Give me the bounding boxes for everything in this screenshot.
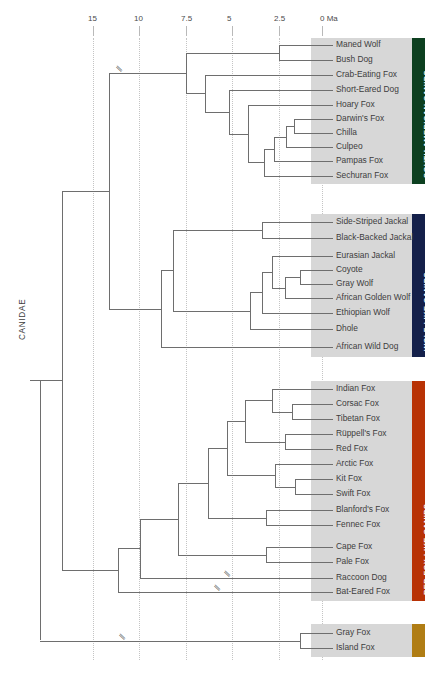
tip-line <box>322 510 333 511</box>
tip-line <box>322 176 333 177</box>
tip-line <box>322 547 333 548</box>
tip-line <box>322 592 333 593</box>
branch-vertical <box>264 149 265 176</box>
branch-horizontal <box>118 548 140 549</box>
tip-line <box>322 298 333 299</box>
branch-horizontal <box>178 483 208 484</box>
tip-line <box>322 133 333 134</box>
branch-horizontal <box>208 518 266 519</box>
branch-horizontal <box>109 73 150 74</box>
branch-horizontal <box>285 449 322 450</box>
branch-horizontal <box>161 347 322 348</box>
branch-horizontal <box>205 112 229 113</box>
tip-line <box>322 329 333 330</box>
phylogeny-figure: 15107.552.50 Ma SOUTH AMERICAN CANIDSWOL… <box>0 0 442 674</box>
branch-horizontal <box>109 309 161 310</box>
taxon-label: Side-Striped Jackal <box>336 217 408 226</box>
branch-horizontal <box>266 525 322 526</box>
branch-horizontal <box>40 380 62 381</box>
tip-line <box>322 464 333 465</box>
branch-horizontal <box>250 329 322 330</box>
branch-vertical <box>266 510 267 525</box>
branch-vertical <box>161 270 162 347</box>
branch-horizontal <box>186 93 205 94</box>
branch-horizontal <box>294 133 322 134</box>
branch-horizontal <box>205 75 322 76</box>
branch-horizontal <box>292 419 322 420</box>
branch-vertical <box>272 256 273 288</box>
axis-tick-label-10: 10 <box>134 14 143 23</box>
tip-line <box>322 479 333 480</box>
tip-line <box>322 45 333 46</box>
taxon-label: Tibetan Fox <box>336 414 380 423</box>
taxon-label: Rüppell's Fox <box>336 429 386 438</box>
branch-vertical <box>140 519 141 578</box>
axis-tick-label-0Ma: 0 Ma <box>320 14 338 23</box>
tip-line <box>322 238 333 239</box>
branch-horizontal <box>140 519 178 520</box>
taxon-label: Corsac Fox <box>336 399 379 408</box>
axis-tick-mark <box>232 26 233 36</box>
tip-line <box>322 161 333 162</box>
taxon-label: Maned Wolf <box>336 40 381 49</box>
tip-line <box>322 284 333 285</box>
branch-horizontal <box>227 421 245 422</box>
branch-horizontal <box>161 270 173 271</box>
branch-horizontal <box>229 90 322 91</box>
clade-colorbar-3 <box>412 624 425 657</box>
tip-line <box>322 494 333 495</box>
branch-vertical <box>245 400 246 441</box>
tip-line <box>322 222 333 223</box>
tip-line <box>322 562 333 563</box>
branch-horizontal <box>245 400 272 401</box>
branch-horizontal <box>264 149 274 150</box>
taxon-label: African Golden Wolf <box>336 293 410 302</box>
taxon-label: Eurasian Jackal <box>336 251 395 260</box>
branch-horizontal <box>150 73 186 74</box>
branch-horizontal <box>300 270 322 271</box>
branch-vertical <box>40 380 41 640</box>
branch-horizontal <box>279 45 322 46</box>
taxon-label: Pampas Fox <box>336 156 383 165</box>
branch-horizontal <box>62 570 118 571</box>
branch-vertical <box>109 73 110 309</box>
branch-horizontal <box>285 277 300 278</box>
branch-horizontal <box>248 105 322 106</box>
branch-horizontal <box>272 288 285 289</box>
branch-vertical <box>272 389 273 412</box>
axis-tick-mark <box>322 26 323 36</box>
branch-horizontal <box>248 162 264 163</box>
branch-horizontal <box>140 578 322 579</box>
taxon-label: Cape Fox <box>336 542 372 551</box>
taxon-label: Chilla <box>336 128 357 137</box>
branch-horizontal <box>272 389 322 390</box>
branch-horizontal <box>173 311 250 312</box>
taxon-label: Culpeo <box>336 142 363 151</box>
axis-tick-mark <box>279 26 280 36</box>
branch-vertical <box>227 421 228 475</box>
gridline <box>93 38 95 660</box>
branch-horizontal <box>272 412 292 413</box>
branch-horizontal <box>266 547 322 548</box>
tip-line <box>322 648 333 649</box>
branch-horizontal <box>274 161 322 162</box>
branch-vertical <box>292 404 293 419</box>
branch-vertical <box>62 191 63 570</box>
tip-line <box>322 60 333 61</box>
branch-vertical <box>208 448 209 517</box>
clade-colorbar-label-0: SOUTH AMERICAN CANIDS <box>422 70 431 178</box>
branch-vertical <box>250 292 251 329</box>
taxon-label: African Wild Dog <box>336 342 398 351</box>
branch-vertical <box>248 105 249 162</box>
branch-horizontal <box>294 119 322 120</box>
taxon-label: Red Fox <box>336 444 368 453</box>
branch-horizontal <box>245 442 285 443</box>
taxon-label: Short-Eared Dog <box>336 85 399 94</box>
branch-vertical <box>266 547 267 562</box>
taxon-label: Fennec Fox <box>336 520 380 529</box>
branch-horizontal <box>275 464 322 465</box>
taxon-label: Swift Fox <box>336 489 370 498</box>
taxon-label: Crab-Eating Fox <box>336 70 397 79</box>
tip-line <box>322 404 333 405</box>
branch-horizontal <box>262 222 322 223</box>
